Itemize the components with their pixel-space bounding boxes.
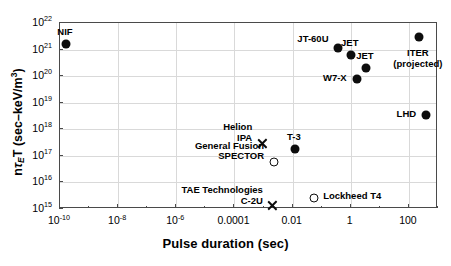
x-tick-minor [321, 206, 322, 209]
y-tick-exponent: 22 [44, 14, 52, 23]
x-tick-label: 100 [399, 215, 417, 226]
x-tick-label: 0.01 [281, 215, 301, 226]
y-tick-exponent: 17 [44, 147, 52, 156]
y-tick-major [59, 208, 63, 209]
plot-area [59, 22, 437, 208]
y-tick-major [59, 75, 63, 76]
y-tick-mantissa: 10 [32, 175, 44, 187]
x-tick-minor [88, 206, 89, 209]
y-tick-major [59, 155, 63, 156]
data-point-jet-long [361, 64, 370, 73]
point-label-jet-long: JET [356, 51, 373, 62]
gridline-vertical [118, 23, 119, 207]
x-tick-label: 10-8 [108, 215, 126, 226]
y-tick-mantissa: 10 [32, 69, 44, 81]
x-tick-label: 10-6 [166, 215, 184, 226]
data-point-t-3 [290, 145, 299, 154]
fusion-performance-chart: 10-1010-810-60.00010.0111001022102110201… [0, 0, 451, 266]
point-label-tae-c2u: TAE TechnologiesC-2U [181, 185, 262, 206]
x-tick-exponent: -8 [120, 213, 126, 222]
x-tick-major [175, 204, 176, 208]
data-point-w7-x [352, 75, 361, 84]
data-point-lhd [422, 110, 431, 119]
y-tick-exponent: 21 [44, 41, 52, 50]
gridline-horizontal [60, 50, 436, 51]
point-label-iter: ITER(projected) [393, 48, 442, 69]
y-tick-mantissa: 10 [32, 149, 44, 161]
point-label-line: NIF [57, 27, 72, 38]
point-label-lockheed-t4: Lockheed T4 [323, 191, 381, 202]
x-tick-label: 1 [347, 215, 353, 226]
y-tick-major [59, 49, 63, 50]
y-axis-title: nτET (sec–keV/m3) [11, 37, 25, 207]
x-tick-mantissa: 10 [48, 214, 60, 226]
x-tick-major [408, 204, 409, 208]
point-label-line: SPECTOR [195, 151, 264, 162]
x-tick-mantissa: 10 [108, 214, 120, 226]
y-axis-title-sub: E [16, 157, 26, 163]
x-tick-major [350, 204, 351, 208]
x-tick-major [292, 204, 293, 208]
point-label-line: JT-60U [297, 34, 328, 45]
x-tick-major [117, 204, 118, 208]
data-point-tae-c2u [267, 200, 278, 211]
y-tick-label: 1022 [8, 17, 52, 28]
gridline-horizontal [60, 76, 436, 77]
point-label-lhd: LHD [397, 109, 417, 120]
y-tick-exponent: 15 [44, 200, 52, 209]
point-label-generalfusion: General FusionSPECTOR [195, 140, 264, 161]
y-tick-mantissa: 10 [32, 16, 44, 28]
data-point-iter [414, 32, 423, 41]
y-tick-exponent: 18 [44, 121, 52, 130]
y-tick-major [59, 102, 63, 103]
data-point-nif [61, 40, 70, 49]
y-tick-mantissa: 10 [32, 42, 44, 54]
point-label-line: JET [341, 38, 358, 49]
point-label-line: W7-X [323, 73, 347, 84]
gridline-vertical [234, 23, 235, 207]
point-label-line: Lockheed T4 [323, 191, 381, 202]
point-label-line: JET [356, 51, 373, 62]
y-tick-major [59, 22, 63, 23]
y-axis-title-mid: T (sec–keV/m [11, 77, 25, 157]
x-tick-minor [146, 206, 147, 209]
point-label-line: (projected) [393, 59, 442, 70]
x-tick-mantissa: 10 [166, 214, 178, 226]
y-tick-exponent: 19 [44, 94, 52, 103]
gridline-vertical [293, 23, 294, 207]
y-tick-mantissa: 10 [32, 202, 44, 214]
x-tick-exponent: -10 [60, 213, 70, 222]
point-label-line: T-3 [287, 132, 301, 143]
data-point-jet [346, 51, 355, 60]
point-label-line: LHD [397, 109, 417, 120]
x-tick-minor [437, 206, 438, 209]
point-label-jt-60u: JT-60U [297, 34, 328, 45]
point-label-jet: JET [341, 38, 358, 49]
gridline-vertical [176, 23, 177, 207]
gridline-horizontal [60, 103, 436, 104]
y-tick-major [59, 128, 63, 129]
data-point-generalfusion [270, 157, 279, 166]
x-axis-title: Pulse duration (sec) [0, 236, 451, 251]
point-label-w7-x: W7-X [323, 73, 347, 84]
x-tick-exponent: -6 [178, 213, 184, 222]
y-tick-mantissa: 10 [32, 95, 44, 107]
y-tick-exponent: 20 [44, 67, 52, 76]
x-tick-label: 10-10 [48, 215, 70, 226]
point-label-line: C-2U [181, 195, 262, 206]
point-label-t-3: T-3 [287, 132, 301, 143]
y-axis-title-sup: 3 [9, 73, 19, 78]
y-tick-mantissa: 10 [32, 122, 44, 134]
x-tick-label: 0.0001 [217, 215, 249, 226]
x-tick-minor [379, 206, 380, 209]
y-tick-exponent: 16 [44, 174, 52, 183]
y-axis-title-pre: n [11, 168, 25, 176]
data-point-lockheed-t4 [310, 193, 319, 202]
y-axis-title-post: ) [11, 68, 25, 72]
point-label-nif: NIF [57, 27, 72, 38]
y-tick-major [59, 181, 63, 182]
